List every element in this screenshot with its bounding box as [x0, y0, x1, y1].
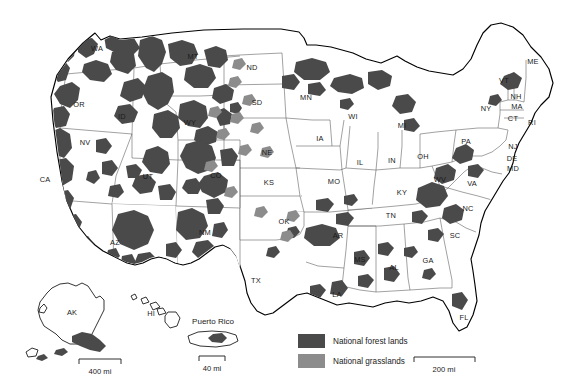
- state-label-or: OR: [73, 100, 85, 109]
- state-label-ca: CA: [40, 175, 51, 184]
- state-label-fl: FL: [459, 313, 468, 322]
- state-label-il: IL: [357, 158, 364, 167]
- state-label-mo: MO: [328, 177, 340, 186]
- map-canvas: WAORCANVIDMTWYUTCOAZNMNDSDNEKSOKTXMNIAMO…: [0, 0, 571, 387]
- scale-bar-alaska-label: 400 mi: [89, 367, 112, 376]
- state-label-wv: WV: [434, 175, 446, 184]
- state-label-nm: NM: [199, 228, 211, 237]
- alaska-label: AK: [67, 308, 77, 317]
- state-label-ok: OK: [278, 217, 289, 226]
- state-label-ia: IA: [316, 134, 323, 143]
- puerto-rico-label: Puerto Rico: [192, 317, 234, 326]
- map-legend: National forest lands National grassland…: [298, 334, 408, 368]
- state-label-ny: NY: [481, 104, 492, 113]
- state-label-nj: NJ: [508, 142, 518, 151]
- state-label-al: AL: [389, 263, 398, 272]
- state-label-id: ID: [118, 112, 126, 121]
- state-label-wi: WI: [348, 112, 357, 121]
- scale-bar-puerto-rico-label: 40 mi: [203, 364, 222, 373]
- state-label-ms: MS: [354, 255, 366, 264]
- state-label-in: IN: [388, 156, 396, 165]
- state-label-vt: VT: [499, 76, 509, 85]
- state-label-nd: ND: [246, 63, 257, 72]
- state-label-mt: MT: [187, 52, 198, 61]
- state-label-nc: NC: [462, 204, 474, 213]
- hawaii-label: HI: [147, 309, 154, 318]
- state-label-co: CO: [210, 171, 222, 180]
- legend-label-grassland: National grasslands: [333, 357, 405, 366]
- state-label-mi: MI: [398, 121, 407, 130]
- hawaii-inset: HI: [131, 294, 180, 328]
- state-label-de: DE: [507, 154, 518, 163]
- scale-bar-alaska: 400 mi: [79, 359, 121, 376]
- state-label-wa: WA: [91, 44, 103, 53]
- legend-swatch-forest: [298, 334, 325, 348]
- state-label-ne: NE: [262, 148, 273, 157]
- state-label-ks: KS: [264, 178, 274, 187]
- state-label-ar: AR: [333, 231, 344, 240]
- state-label-tx: TX: [251, 276, 261, 285]
- state-label-nh: NH: [510, 92, 521, 101]
- state-label-me: ME: [527, 57, 539, 66]
- state-label-az: AZ: [110, 238, 120, 247]
- scale-bar-puerto-rico: 40 mi: [199, 356, 225, 373]
- state-label-va: VA: [467, 179, 477, 188]
- state-label-ct: CT: [508, 114, 519, 123]
- state-label-ri: RI: [528, 118, 536, 127]
- alaska-inset: AK: [26, 283, 106, 361]
- state-label-la: LA: [332, 290, 341, 299]
- state-label-ga: GA: [422, 256, 433, 265]
- us-national-forest-map: WAORCANVIDMTWYUTCOAZNMNDSDNEKSOKTXMNIAMO…: [0, 0, 571, 387]
- state-label-pa: PA: [461, 137, 471, 146]
- state-label-ut: UT: [143, 172, 154, 181]
- legend-label-forest: National forest lands: [333, 337, 408, 346]
- scale-bar-main: 200 mi: [414, 357, 475, 374]
- state-label-ma: MA: [511, 102, 523, 111]
- scale-bar-main-label: 200 mi: [433, 365, 456, 374]
- state-label-nv: NV: [80, 138, 91, 147]
- state-label-md: MD: [507, 164, 519, 173]
- state-label-sc: SC: [450, 231, 461, 240]
- state-label-sd: SD: [252, 98, 263, 107]
- state-label-wy: WY: [184, 118, 196, 127]
- state-label-oh: OH: [417, 152, 429, 161]
- state-label-mn: MN: [300, 93, 312, 102]
- state-label-ky: KY: [397, 188, 407, 197]
- state-label-tn: TN: [386, 211, 396, 220]
- legend-swatch-grassland: [298, 354, 325, 368]
- puerto-rico-inset: Puerto Rico: [188, 317, 238, 347]
